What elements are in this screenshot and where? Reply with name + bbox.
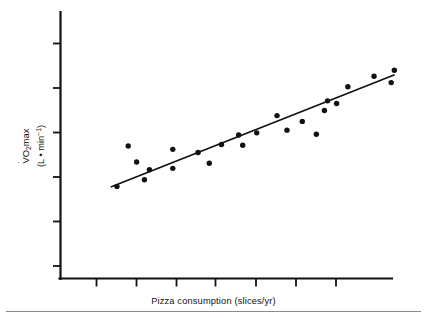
y-axis-label-text: VO2max (L • min−1)	[21, 125, 46, 167]
x-axis-label-text: Pizza consumption (slices/yr)	[151, 296, 276, 306]
plot-canvas	[0, 0, 427, 321]
data-point	[371, 74, 376, 79]
data-point	[170, 147, 175, 152]
y-axis-group	[53, 12, 61, 279]
data-point	[392, 68, 397, 73]
v-dot-icon: V	[21, 157, 32, 163]
data-point	[170, 166, 175, 171]
scatter-plot-figure: VO2max (L • min−1) Pizza consumption (sl…	[0, 0, 427, 321]
data-point	[274, 113, 279, 118]
data-point	[325, 98, 330, 103]
data-point	[389, 80, 394, 85]
data-points-group	[114, 68, 397, 190]
y-axis-label-line2: (L • min−1)	[34, 125, 46, 167]
data-point	[207, 161, 212, 166]
x-axis-label: Pizza consumption (slices/yr)	[0, 290, 427, 308]
data-point	[114, 184, 119, 189]
data-point	[284, 127, 289, 132]
data-point	[334, 101, 339, 106]
regression-line	[111, 75, 395, 187]
y-axis-label: VO2max (L • min−1)	[14, 108, 54, 184]
y-axis-label-line1: VO2max	[21, 125, 34, 167]
data-point	[195, 150, 200, 155]
data-point	[142, 177, 147, 182]
data-point	[322, 108, 327, 113]
data-point	[147, 167, 152, 172]
data-point	[236, 132, 241, 137]
data-point	[345, 84, 350, 89]
x-axis-group	[60, 279, 393, 287]
data-point	[219, 142, 224, 147]
data-point	[240, 143, 245, 148]
data-point	[254, 130, 259, 135]
data-point	[125, 143, 130, 148]
data-point	[300, 119, 305, 124]
data-point	[314, 132, 319, 137]
data-point	[134, 159, 139, 164]
